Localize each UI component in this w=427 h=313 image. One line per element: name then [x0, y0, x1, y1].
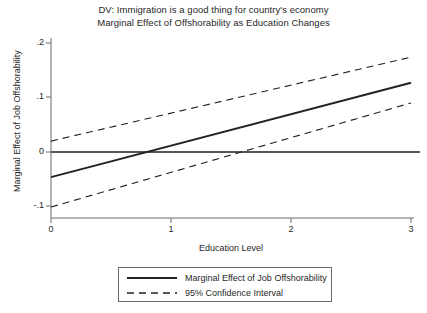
confidence-interval-upper-line [51, 57, 411, 141]
legend-item-label-1: 95% Confidence Interval [185, 288, 283, 298]
chart-legend: Marginal Effect of Job Offshorability 95… [118, 267, 332, 302]
legend-item-confidence-interval: 95% Confidence Interval [125, 286, 283, 300]
legend-dashed-line-icon [125, 288, 179, 298]
legend-solid-line-icon [125, 273, 179, 283]
legend-item-marginal-effect: Marginal Effect of Job Offshorability [125, 271, 327, 285]
marginal-effects-chart: DV: Immigration is a good thing for coun… [0, 0, 427, 313]
marginal-effect-line [51, 83, 411, 177]
confidence-interval-lower-line [51, 103, 411, 207]
legend-item-label-0: Marginal Effect of Job Offshorability [185, 273, 327, 283]
